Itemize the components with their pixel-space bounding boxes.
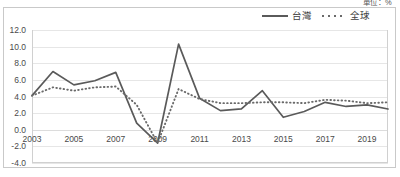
series-line-taiwan <box>32 44 388 143</box>
chart-figure: 單位：% 台灣 全球 12.010.08.06.04.02.00.0-2.0-4… <box>0 0 400 177</box>
legend-label-taiwan: 台灣 <box>292 11 312 21</box>
y-axis-tick-label: 2.0 <box>14 108 26 118</box>
unit-caption: 單位：% <box>363 0 392 7</box>
legend-item-global[interactable]: 全球 <box>322 8 370 24</box>
series-line-global <box>32 87 388 144</box>
chart-legend: 台灣 全球 <box>0 8 400 24</box>
y-axis-tick-label: 6.0 <box>14 75 26 85</box>
y-axis-tick-label: 8.0 <box>14 58 26 68</box>
solid-line-icon <box>262 12 288 20</box>
gridline <box>32 163 388 164</box>
legend-label-global: 全球 <box>350 11 370 21</box>
legend-item-taiwan[interactable]: 台灣 <box>262 8 312 24</box>
y-axis-tick-label: 10.0 <box>9 42 26 52</box>
y-axis-tick-label: -4.0 <box>11 158 26 168</box>
dotted-line-icon <box>322 12 346 20</box>
chart-series-layer <box>32 30 388 163</box>
y-axis-tick-label: 12.0 <box>9 25 26 35</box>
y-axis-tick-label: 4.0 <box>14 92 26 102</box>
